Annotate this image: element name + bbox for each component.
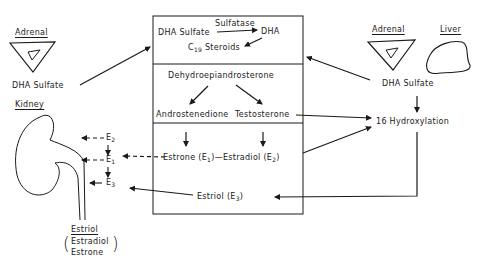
arrow-right-dha-to-box [307,57,370,80]
liver-shape [427,42,471,74]
dha-text: DHA [261,28,280,36]
kidney-e1: E1 [106,156,115,164]
kidney-e3: E3 [106,179,115,187]
androstenedione-text: Androstenedione [156,111,229,119]
ureter [40,115,85,220]
right-adrenal-label: Adrenal [372,26,405,34]
estradiol-close: ) [276,153,279,162]
left-adrenal-shape [10,42,55,72]
left-adrenal-label: Adrenal [15,29,48,37]
urine-estradiol: Estradiol [71,238,109,246]
kidney-e2: E2 [106,134,115,142]
c19-steroids-text: C19 Steroids [188,44,240,52]
dhea-text: Dehydroepiandrosterone [168,72,274,80]
urine-estrone: Estrone [71,249,103,257]
estradiol-sub: 2 [272,156,276,163]
hydroxylation-text: 16 Hydroxylation [376,118,449,126]
estriol-label: Estriol (E [197,192,236,201]
left-dha-sulfate-label: DHA Sulfate [12,82,64,90]
c19-suffix: Steroids [205,43,240,52]
kidney-shape [16,117,80,220]
estrone-estradiol-text: Estrone (E1)—Estradiol (E2) [163,154,280,162]
estrone-estradiol-dash: — [215,153,223,162]
kidney-label: Kidney [15,101,44,109]
arrow-sulfatase [217,30,257,32]
estriol-close: ) [240,192,243,201]
arrow-estrone-to-kidney [123,156,165,157]
c19-prefix: C [188,43,194,52]
arrow-estriol-to-kidney [130,188,193,195]
e3-sub: 3 [111,181,115,188]
right-adrenal-inner [386,48,398,58]
liver-label: Liver [440,26,461,34]
sulfatase-label: Sulfatase [215,20,255,28]
estriol-sub: 3 [236,195,240,202]
arrow-dhea-to-testosterone [236,85,262,104]
arrow-testosterone-to-hydroxylation [296,115,371,118]
right-dha-sulfate-label: DHA Sulfate [382,80,434,88]
arrow-dhea-to-androstenedione [190,86,208,104]
testosterone-text: Testosterone [235,111,289,119]
urine-paren-open: ( [63,236,70,253]
c19-sub: 19 [194,46,202,53]
estradiol-label: Estradiol (E [223,153,272,162]
right-adrenal-shape [368,40,415,70]
arrow-dha-to-c19 [245,38,262,46]
e2-sub: 2 [111,136,115,143]
estrone-label: Estrone (E [163,153,207,162]
arrow-estradiol-to-hydroxylation [303,127,371,153]
e1-sub: 1 [111,158,115,165]
dha-sulfate-text: DHA Sulfate [158,29,210,37]
left-adrenal-inner [28,50,40,60]
estriol-text: Estriol (E3) [197,193,243,201]
arrow-hydroxylation-to-estriol [275,132,417,197]
arrow-left-adrenal-to-box [80,47,150,85]
estrone-sub: 1 [207,156,211,163]
urine-estriol: Estriol [71,226,98,234]
urine-paren-close: ) [112,236,119,253]
